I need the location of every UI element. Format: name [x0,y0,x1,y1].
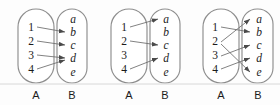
diagram-1-codomain-element-e: e [70,66,75,78]
diagram-2-canvas: 1 2 3 4 a b c d e A B [93,0,186,105]
diagram-3-domain-element-4: 4 [212,63,218,75]
diagram-1-domain-label: A [32,89,40,101]
diagram-2-codomain-element-a: a [163,13,169,25]
diagram-1-codomain-element-b: b [70,26,76,38]
diagram-3-codomain-label: B [254,89,261,101]
diagram-1-domain-element-2: 2 [28,35,34,47]
diagram-1-canvas: 1 2 3 4 a b c d e A B [0,0,93,105]
diagram-2-domain-element-4: 4 [121,63,127,75]
diagram-1-domain-oval [18,9,54,83]
diagram-3-canvas: 1 2 3 4 a b c d e A B [186,0,280,105]
mapping-diagram-2: 1 2 3 4 a b c d e A B [93,0,186,105]
diagram-3-domain-element-1: 1 [212,21,218,33]
diagram-3-domain-element-2: 2 [212,35,218,47]
diagram-3-domain-element-3: 3 [212,49,218,61]
diagram-1-codomain-label: B [68,89,75,101]
diagram-1-domain-element-1: 1 [28,21,34,33]
diagram-3-domain-label: A [217,89,225,101]
diagram-2-codomain-label: B [161,89,168,101]
diagram-2-codomain-element-b: b [163,26,169,38]
diagram-3-domain-oval [203,9,239,83]
diagram-2-codomain-element-d: d [163,52,169,64]
diagram-3-codomain-element-d: d [256,52,262,64]
diagram-3-codomain-element-c: c [256,39,261,51]
diagram-2-codomain-element-e: e [163,66,168,78]
diagram-1-domain-element-4: 4 [28,63,34,75]
diagram-2-domain-element-2: 2 [121,35,127,47]
diagram-1-codomain-element-d: d [70,52,76,64]
diagram-2-codomain-element-c: c [163,39,168,51]
mapping-diagrams-figure: 1 2 3 4 a b c d e A B [0,0,280,105]
diagram-3-codomain-element-b: b [256,26,262,38]
diagram-1-domain-element-3: 3 [28,49,34,61]
diagram-2-domain-element-3: 3 [121,49,127,61]
diagram-2-domain-label: A [125,89,133,101]
diagram-3-codomain-element-a: a [256,13,262,25]
diagram-1-codomain-element-a: a [70,13,76,25]
diagram-1-codomain-element-c: c [70,39,75,51]
diagram-3-codomain-element-e: e [256,66,261,78]
mapping-diagram-1: 1 2 3 4 a b c d e A B [0,0,93,105]
mapping-diagram-3: 1 2 3 4 a b c d e A B [186,0,280,105]
diagram-2-domain-oval [111,9,147,83]
diagram-2-domain-element-1: 1 [121,21,127,33]
